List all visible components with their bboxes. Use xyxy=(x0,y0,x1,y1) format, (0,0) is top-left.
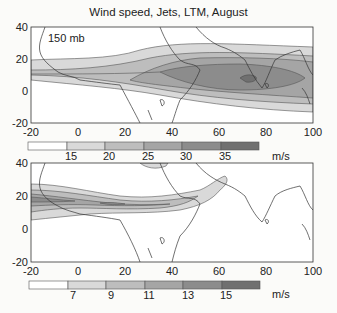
top-x-axis: -20 0 20 40 60 80 100 xyxy=(23,126,322,138)
figure-canvas: 150 mb 40 20 0 -20 -20 0 20 40 60 80 100… xyxy=(0,0,337,313)
y-tick: 0 xyxy=(22,85,28,97)
x-tick: 20 xyxy=(119,265,131,277)
x-tick: 60 xyxy=(213,265,225,277)
x-tick: -20 xyxy=(23,265,39,277)
bottom-y-axis: 40 20 0 -20 xyxy=(12,157,28,268)
y-tick: 0 xyxy=(22,223,28,235)
colorbar-label: 30 xyxy=(180,150,192,162)
colorbar-unit: m/s xyxy=(272,150,290,162)
bottom-x-axis: -20 0 20 40 60 80 100 xyxy=(23,265,322,277)
y-tick: 20 xyxy=(16,53,28,65)
colorbar-label: 25 xyxy=(142,150,154,162)
colorbar-label: 35 xyxy=(219,150,231,162)
bottom-panel: 40 20 0 -20 -20 0 20 40 60 80 100 7 9 11… xyxy=(12,157,322,301)
x-tick: 20 xyxy=(119,126,131,138)
x-tick: 80 xyxy=(260,126,272,138)
colorbar-unit: m/s xyxy=(272,288,290,300)
top-y-axis: 40 20 0 -20 xyxy=(12,21,28,129)
top-colorbar: 15 20 25 30 35 m/s xyxy=(28,142,290,162)
x-tick: 100 xyxy=(304,126,322,138)
x-tick: -20 xyxy=(23,126,39,138)
colorbar-label: 15 xyxy=(220,289,232,301)
colorbar-label: 20 xyxy=(103,150,115,162)
colorbar-label: 15 xyxy=(65,150,77,162)
colorbar-label: 7 xyxy=(70,289,76,301)
pressure-level-label: 150 mb xyxy=(48,32,85,44)
top-panel: 150 mb 40 20 0 -20 -20 0 20 40 60 80 100… xyxy=(12,21,322,162)
x-tick: 40 xyxy=(166,126,178,138)
x-tick: 60 xyxy=(213,126,225,138)
x-tick: 0 xyxy=(75,265,81,277)
x-tick: 40 xyxy=(166,265,178,277)
y-tick: 40 xyxy=(16,21,28,33)
x-tick: 100 xyxy=(304,265,322,277)
x-tick: 0 xyxy=(75,126,81,138)
colorbar-label: 9 xyxy=(108,289,114,301)
y-tick: 40 xyxy=(16,157,28,169)
x-tick: 80 xyxy=(260,265,272,277)
bottom-colorbar: 7 9 11 13 15 m/s xyxy=(29,281,290,301)
colorbar-label: 11 xyxy=(143,289,154,301)
colorbar-label: 13 xyxy=(182,289,194,301)
y-tick: 20 xyxy=(16,190,28,202)
